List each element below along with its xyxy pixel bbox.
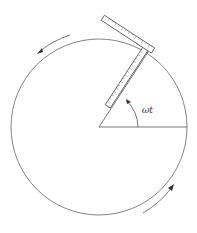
angle-arc bbox=[127, 101, 138, 127]
rotation-arrow-top bbox=[39, 35, 70, 52]
ruler-radial bbox=[105, 45, 149, 109]
rotation-arrowhead-top bbox=[37, 48, 43, 54]
ruler-tangent bbox=[101, 15, 154, 53]
rotating-frame-diagram: ωt bbox=[0, 0, 197, 233]
angle-arrowhead bbox=[126, 99, 131, 104]
rotating-radius bbox=[99, 49, 150, 127]
rotation-arrowhead-bottom bbox=[168, 184, 174, 191]
angle-label: ωt bbox=[142, 105, 153, 115]
rotation-arrow-bottom bbox=[143, 187, 172, 213]
